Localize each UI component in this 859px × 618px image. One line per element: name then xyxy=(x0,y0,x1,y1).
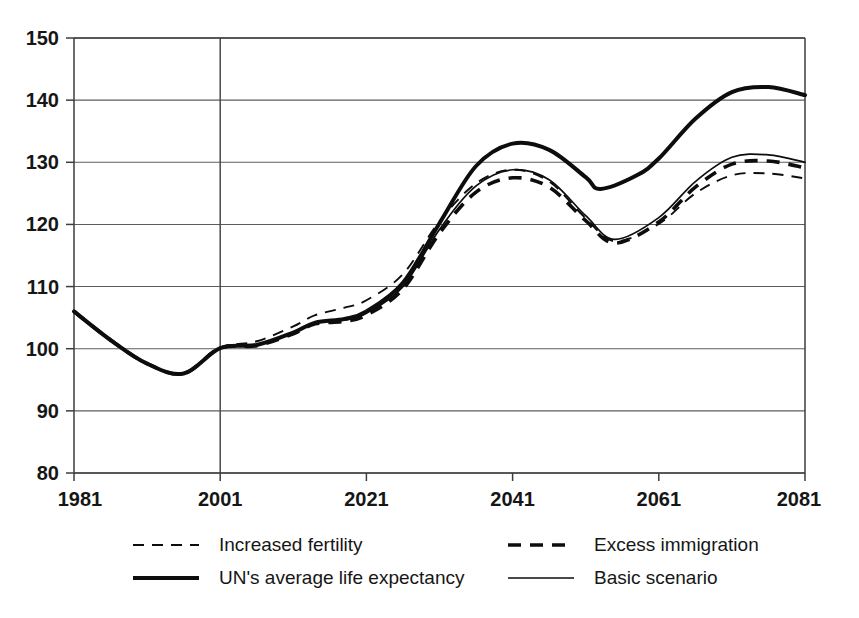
y-tick-label: 80 xyxy=(37,462,59,484)
x-tick-label: 2001 xyxy=(198,488,243,510)
y-tick-label: 90 xyxy=(37,400,59,422)
y-tick-label: 130 xyxy=(26,151,59,173)
y-tick-label: 140 xyxy=(26,89,59,111)
y-tick-label: 150 xyxy=(26,27,59,49)
figure-container: 8090100110120130140150 19812001202120412… xyxy=(0,0,859,618)
x-tick-label: 2021 xyxy=(344,488,389,510)
y-tick-label: 120 xyxy=(26,213,59,235)
legend-label: Increased fertility xyxy=(219,534,363,555)
x-tick-label: 2061 xyxy=(637,488,682,510)
y-tick-label: 110 xyxy=(27,276,59,298)
y-tick-label: 100 xyxy=(26,338,59,360)
legend-label: Basic scenario xyxy=(594,567,718,588)
x-tick-label: 1981 xyxy=(58,488,103,510)
line-chart: 8090100110120130140150 19812001202120412… xyxy=(0,0,859,618)
legend-label: UN's average life expectancy xyxy=(219,567,465,588)
x-tick-label: 2041 xyxy=(490,488,535,510)
x-tick-label: 2081 xyxy=(777,488,822,510)
legend-label: Excess immigration xyxy=(594,534,759,555)
